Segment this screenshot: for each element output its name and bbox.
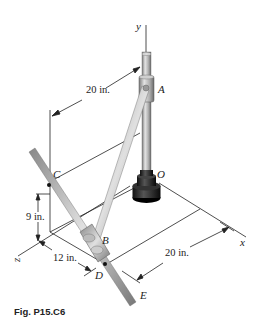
- labels: y x z A B C D E O 20 in. 9 in. 12 in. 20…: [10, 20, 245, 301]
- rod-ab: [92, 85, 149, 242]
- construction-lines: [18, 25, 246, 265]
- vertical-rod: [139, 52, 154, 182]
- dim-20in-top: 20 in.: [86, 84, 110, 95]
- point-label-a: A: [157, 83, 165, 95]
- point-c: [47, 183, 51, 187]
- axis-label-y: y: [135, 20, 141, 32]
- point-label-d: D: [94, 269, 103, 281]
- x-axis-line: [159, 183, 246, 237]
- axis-label-z: z: [10, 257, 22, 263]
- point-label-c: C: [53, 168, 61, 180]
- point-label-o: O: [157, 168, 165, 180]
- point-label-e: E: [139, 289, 147, 301]
- dim-20in-bottom: 20 in.: [165, 247, 189, 258]
- figure-caption: Fig. P15.C6: [14, 306, 65, 317]
- point-label-b: B: [102, 234, 109, 246]
- dim-12in: 12 in.: [53, 252, 77, 263]
- dimension-arrows: [36, 67, 234, 283]
- dim-9in: 9 in.: [26, 211, 45, 222]
- point-d: [103, 262, 107, 266]
- mechanism-diagram: y x z A B C D E O 20 in. 9 in. 12 in. 20…: [0, 0, 263, 326]
- axis-label-x: x: [239, 236, 245, 248]
